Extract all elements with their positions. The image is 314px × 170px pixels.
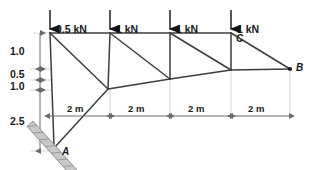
member-diagonal-2: [110, 33, 170, 79]
member-bottom-chord-n3-b: [231, 69, 290, 70]
load-label-1: 0.5 kN: [56, 24, 87, 35]
truss-diagram: 0.5 kN 1 kN 1 kN 1 kN 1.0 0.5 1.0 2.5 2 …: [0, 0, 314, 170]
truss-drawing-canvas: [0, 0, 314, 170]
node-label-c: C: [236, 34, 243, 44]
load-label-3: 1 kN: [176, 24, 198, 35]
member-diagonal-1: [50, 33, 108, 89]
member-bottom-chord-n2-n3: [170, 70, 231, 79]
node-label-b: B: [296, 63, 303, 73]
vertical-dim-label-1: 1.0: [10, 46, 25, 57]
vertical-dim-label-4: 2.5: [10, 116, 25, 127]
load-label-2: 1 kN: [116, 24, 138, 35]
member-bottom-chord-a-n1: [55, 89, 108, 147]
span-label-1: 2 m: [67, 104, 83, 114]
member-vertical-1: [108, 33, 110, 89]
vertical-dim-label-2: 0.5: [10, 69, 25, 80]
span-label-3: 2 m: [188, 104, 204, 114]
vertical-dim-label-3: 1.0: [10, 81, 25, 92]
node-dot-b: [288, 67, 292, 71]
member-bottom-chord-n1-n2: [108, 79, 170, 89]
node-label-a: A: [62, 147, 69, 157]
span-label-2: 2 m: [128, 104, 144, 114]
span-label-4: 2 m: [248, 104, 264, 114]
node-dots: [288, 67, 292, 71]
member-diagonal-3: [170, 33, 231, 70]
